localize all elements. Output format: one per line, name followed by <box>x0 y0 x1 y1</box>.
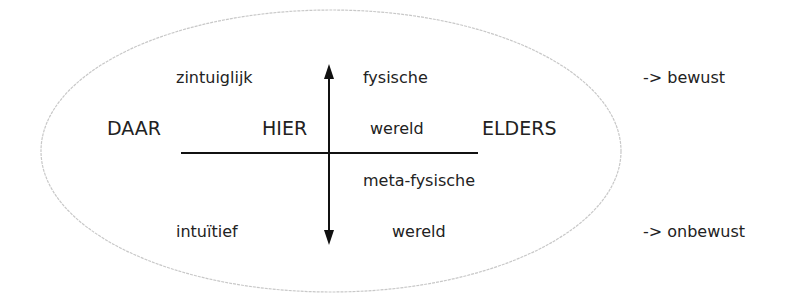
label-elders: ELDERS <box>482 119 557 138</box>
label-intuitief: intuïtief <box>176 224 238 240</box>
diagram-canvas <box>0 0 812 296</box>
outer-ellipse <box>41 10 621 292</box>
label-onbewust: -> onbewust <box>643 224 745 240</box>
label-fysische: fysische <box>363 70 428 86</box>
arrow-up-icon <box>324 64 334 79</box>
label-bewust: -> bewust <box>643 70 725 86</box>
label-hier: HIER <box>262 119 307 138</box>
label-wereld-bottom: wereld <box>392 224 446 240</box>
label-wereld-top: wereld <box>370 121 424 137</box>
arrow-down-icon <box>324 230 334 245</box>
label-zintuiglijk: zintuiglijk <box>176 70 253 86</box>
label-daar: DAAR <box>107 119 161 138</box>
label-meta-fysische: meta-fysische <box>363 173 475 189</box>
